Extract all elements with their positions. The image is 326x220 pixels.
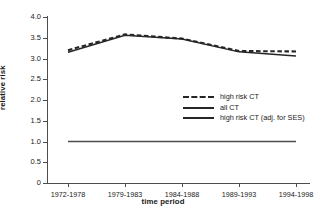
x-tick xyxy=(125,183,126,187)
y-tick-label: 3.5 xyxy=(31,34,41,42)
chart-legend: high risk CT all CT high risk CT (adj. f… xyxy=(183,92,305,124)
legend-swatch-dashed-icon xyxy=(183,96,214,98)
y-tick-label: 2.0 xyxy=(31,96,41,104)
legend-label: high risk CT xyxy=(220,93,259,101)
y-tick xyxy=(43,183,48,184)
x-tick xyxy=(296,183,297,187)
y-tick-label: 2.5 xyxy=(31,76,41,84)
x-axis-line xyxy=(47,183,310,184)
y-tick-label: 0 xyxy=(37,179,41,187)
relative-risk-line-chart: relative risk time period 00.51.01.52.02… xyxy=(0,0,326,220)
series-line xyxy=(68,34,296,51)
legend-item-high-risk-ct-adj-ses: high risk CT (adj. for SES) xyxy=(183,113,305,124)
x-tick-label: 1984-1988 xyxy=(165,191,199,199)
x-tick-label: 1979-1983 xyxy=(108,191,142,199)
y-tick-label: 3.0 xyxy=(31,55,41,63)
legend-item-all-ct: all CT xyxy=(183,103,305,114)
x-tick-label: 1972-1978 xyxy=(51,191,85,199)
series-line xyxy=(68,35,296,56)
y-tick-label: 1.5 xyxy=(31,117,41,125)
x-tick xyxy=(68,183,69,187)
x-tick-label: 1989-1993 xyxy=(222,191,256,199)
x-tick xyxy=(239,183,240,187)
legend-label: high risk CT (adj. for SES) xyxy=(220,114,305,122)
y-tick-label: 1.0 xyxy=(31,138,41,146)
y-tick-label: 4.0 xyxy=(31,13,41,20)
x-tick-label: 1994-1998 xyxy=(279,191,313,199)
legend-swatch-solid-icon xyxy=(183,117,214,119)
x-tick xyxy=(182,183,183,187)
legend-swatch-solid-icon xyxy=(183,107,214,109)
legend-label: all CT xyxy=(220,104,239,112)
legend-item-high-risk-ct: high risk CT xyxy=(183,92,305,103)
y-tick-label: 0.5 xyxy=(31,159,41,167)
x-axis-title: time period xyxy=(0,197,326,206)
y-axis-title: relative risk xyxy=(0,65,7,110)
